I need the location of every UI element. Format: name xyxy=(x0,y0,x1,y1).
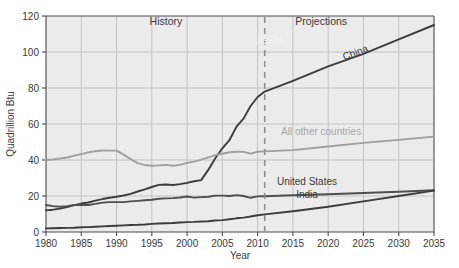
y-tick-label: 60 xyxy=(28,119,40,130)
all-other-countries-label: All other countries xyxy=(281,126,361,137)
x-tick-label: 2030 xyxy=(388,238,411,249)
y-tick-label: 120 xyxy=(22,11,39,22)
chart-container: 020406080100120 198019851990199520002005… xyxy=(0,0,459,268)
y-tick-labels: 020406080100120 xyxy=(22,11,39,238)
history-label: History xyxy=(150,15,183,27)
x-tick-labels: 1980198519901995200020052010201520202025… xyxy=(35,238,446,249)
united-states-label: United States xyxy=(277,176,337,187)
x-tick-label: 2015 xyxy=(282,238,305,249)
y-tick-label: 20 xyxy=(28,191,40,202)
y-tick-label: 0 xyxy=(33,227,39,238)
line-chart: 020406080100120 198019851990199520002005… xyxy=(0,0,459,268)
x-tick-label: 1990 xyxy=(105,238,128,249)
india-label: India xyxy=(296,189,318,200)
x-tick-label: 1985 xyxy=(70,238,93,249)
x-axis-title: Year xyxy=(230,250,251,261)
projections-label: Projections xyxy=(295,15,347,27)
x-tick-label: 2035 xyxy=(423,238,446,249)
x-tick-label: 1995 xyxy=(141,238,164,249)
x-tick-label: 2020 xyxy=(317,238,340,249)
x-tick-label: 2000 xyxy=(176,238,199,249)
y-tick-label: 100 xyxy=(22,47,39,58)
x-tick-label: 2025 xyxy=(352,238,375,249)
y-tick-label: 40 xyxy=(28,155,40,166)
y-tick-label: 80 xyxy=(28,83,40,94)
x-tick-label: 2005 xyxy=(211,238,234,249)
x-tick-label: 1980 xyxy=(35,238,58,249)
x-tick-label: 2010 xyxy=(247,238,270,249)
y-axis-title: Quadrillion Btu xyxy=(5,91,16,157)
watermark-text: USEIA xyxy=(252,34,286,46)
